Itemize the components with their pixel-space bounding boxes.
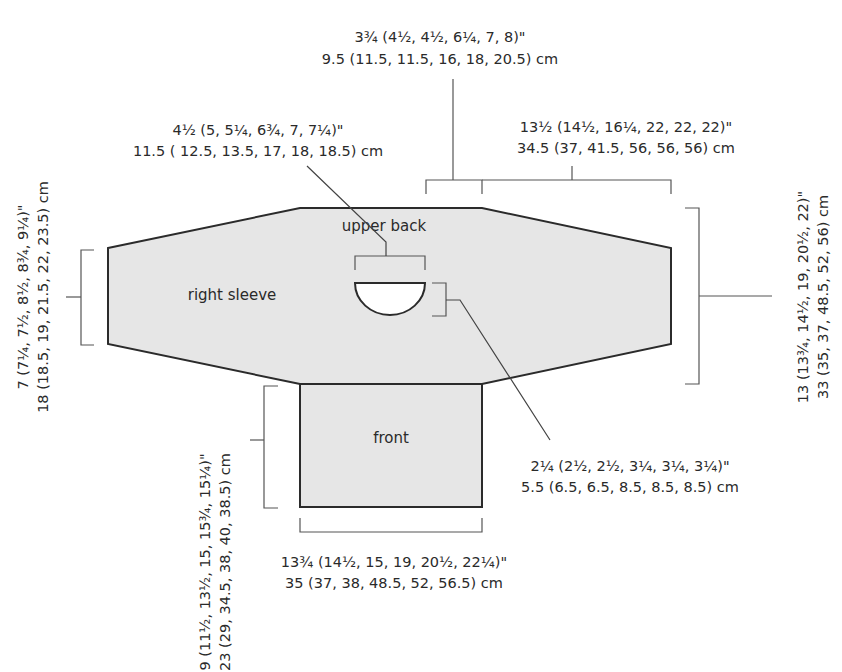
measure-sleeve-cuff-cm: 18 (18.5, 19, 21.5, 22, 23.5) cm — [35, 181, 51, 413]
label-right-sleeve: right sleeve — [188, 286, 277, 304]
dim-line-front-width — [300, 518, 482, 532]
measure-neck-to-center-cm: 9.5 (11.5, 11.5, 16, 18, 20.5) cm — [322, 51, 558, 67]
measure-front-width-cm: 35 (37, 38, 48.5, 52, 56.5) cm — [285, 575, 503, 591]
measure-neck-depth-in: 2¼ (2½, 2½, 3¼, 3¼, 3¼)" — [530, 458, 729, 474]
dim-line-neck-to-center — [426, 180, 482, 194]
measure-neck-width-cm: 11.5 ( 12.5, 13.5, 17, 18, 18.5) cm — [133, 143, 383, 159]
label-upper-back: upper back — [342, 217, 427, 235]
measure-body-height-cm: 33 (35, 37, 48.5, 52, 56) cm — [815, 195, 831, 399]
dim-line-sleeve-cuff — [81, 250, 94, 345]
garment-schematic: upper back right sleeve front 3¾ (4½, 4½… — [0, 0, 842, 672]
dim-line-front-height — [264, 386, 278, 508]
measure-neck-width-in: 4½ (5, 5¼, 6¾, 7, 7¼)" — [172, 122, 343, 138]
measure-front-height-in: 9 (11½, 13½, 15, 15¾, 15¼)" — [197, 453, 213, 670]
measure-body-height-in: 13 (13¾, 14½, 19, 20½, 22)" — [795, 191, 811, 403]
measure-front-height-cm: 23 (29, 34.5, 38, 40, 38.5) cm — [217, 453, 233, 671]
measure-neck-depth-cm: 5.5 (6.5, 6.5, 8.5, 8.5, 8.5) cm — [521, 479, 739, 495]
dim-line-upper-body-width — [482, 180, 671, 194]
label-front: front — [373, 429, 409, 447]
dim-line-body-height — [685, 208, 699, 384]
measure-sleeve-cuff-in: 7 (7¼, 7½, 8½, 8¾, 9¼)" — [15, 204, 31, 389]
measure-upper-body-width-in: 13½ (14½, 16¼, 22, 22, 22)" — [520, 119, 732, 135]
measure-neck-to-center-in: 3¾ (4½, 4½, 6¼, 7, 8)" — [354, 29, 525, 45]
measure-upper-body-width-cm: 34.5 (37, 41.5, 56, 56, 56) cm — [517, 140, 735, 156]
measure-front-width-in: 13¾ (14½, 15, 19, 20½, 22¼)" — [281, 554, 507, 570]
